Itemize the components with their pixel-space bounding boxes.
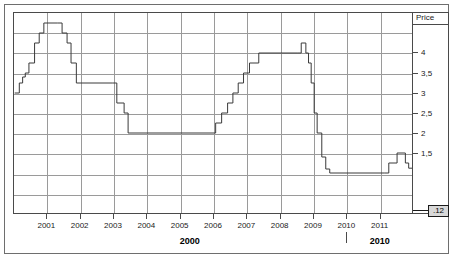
last-value-connector	[413, 210, 428, 211]
x-axis-major-label: 2000	[180, 236, 200, 246]
y-axis-label: 2	[421, 129, 425, 138]
x-axis-tick	[213, 214, 214, 219]
x-axis-tick	[313, 214, 314, 219]
x-axis-period-separator	[346, 232, 347, 243]
x-axis-tick	[180, 214, 181, 219]
x-axis-label: 2006	[204, 221, 222, 230]
x-axis-tick	[80, 214, 81, 219]
y-axis-tick	[413, 133, 418, 134]
x-axis-tick	[46, 214, 47, 219]
x-axis-label: 2007	[237, 221, 255, 230]
y-axis-label: 1,5	[421, 149, 432, 158]
x-axis-tick	[246, 214, 247, 219]
last-value-badge: .12	[428, 205, 449, 217]
x-axis-tick	[380, 214, 381, 219]
x-axis-tick	[113, 214, 114, 219]
y-axis-label: 3,5	[421, 68, 432, 77]
x-axis-label: 2004	[137, 221, 155, 230]
x-axis-tick	[280, 214, 281, 219]
plot-area	[13, 12, 413, 214]
x-axis-label: 2005	[171, 221, 189, 230]
y-axis-tick	[413, 113, 418, 114]
y-axis-tick	[413, 73, 418, 74]
y-axis-tick	[413, 52, 418, 53]
x-axis-label: 2003	[104, 221, 122, 230]
x-axis-label: 2001	[37, 221, 55, 230]
x-axis-label: 2008	[271, 221, 289, 230]
price-step-line	[15, 23, 412, 173]
series-layer	[14, 13, 412, 213]
x-axis-label: 2009	[304, 221, 322, 230]
y-axis-header-divider	[413, 24, 449, 25]
x-axis-label: 2010	[337, 221, 355, 230]
x-axis-tick	[146, 214, 147, 219]
y-axis-label: 4	[421, 48, 425, 57]
y-axis-tick	[413, 93, 418, 94]
y-axis-title: Price	[416, 13, 434, 22]
chart-figure: Price 43,532,521,5 200120022003200420052…	[0, 0, 455, 263]
x-axis-label: 2002	[71, 221, 89, 230]
x-axis-tick	[346, 214, 347, 219]
y-axis-tick	[413, 153, 418, 154]
y-axis-label: 3	[421, 88, 425, 97]
x-axis-label: 2011	[371, 221, 388, 230]
y-axis-label: 2,5	[421, 109, 432, 118]
x-axis-major-label: 2010	[370, 236, 390, 246]
